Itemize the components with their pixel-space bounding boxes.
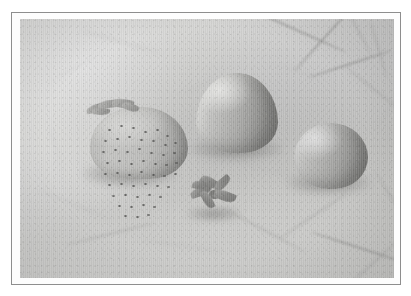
strawberry-conical-body [196, 73, 278, 153]
photo-mat [12, 13, 400, 284]
strawberry-round [294, 123, 368, 189]
calyx-leaf [92, 107, 111, 116]
strawberry-seed [163, 175, 166, 177]
calyx-detached [190, 177, 238, 211]
strawberry-seed [104, 173, 107, 175]
calyx-sepal [213, 187, 237, 205]
strawberry-seed [174, 173, 177, 175]
strawberry-round-body [294, 123, 368, 189]
strawberry-calyx-attached [84, 98, 140, 117]
calyx-leaf [121, 100, 140, 115]
strawberry-seeded [90, 107, 188, 179]
photograph [20, 19, 394, 278]
photo-frame [11, 12, 401, 285]
strawberry-conical [196, 73, 278, 153]
